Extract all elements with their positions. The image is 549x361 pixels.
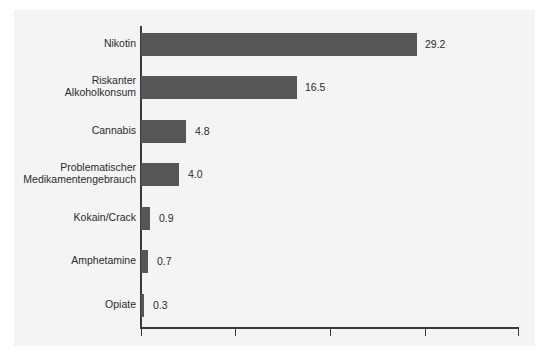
category-label-riskanter-line2: Alkoholkonsum: [0, 87, 136, 99]
value-label-kokain-crack: 0.9: [159, 212, 174, 224]
bar-row-problematischer-medikamentengebrauch: Problematischer Medikamentengebrauch 4.0: [0, 163, 549, 186]
bar-opiate: [141, 294, 144, 317]
category-label-nikotin-line1: Nikotin: [104, 37, 136, 49]
bar-row-kokain-crack: Kokain/Crack 0.9: [0, 207, 549, 230]
bar-row-opiate: Opiate 0.3: [0, 294, 549, 317]
plot-area: Nikotin 29.2 Riskanter Alkoholkonsum 16.…: [0, 0, 549, 361]
category-label-riskanter-alkoholkonsum: Riskanter Alkoholkonsum: [0, 75, 140, 98]
value-label-amphetamine: 0.7: [157, 255, 172, 267]
bar-row-nikotin: Nikotin 29.2: [0, 33, 549, 56]
category-label-problematischer-line2: Medikamentengebrauch: [0, 174, 136, 186]
category-label-problematischer-medikamentengebrauch: Problematischer Medikamentengebrauch: [0, 162, 140, 185]
bar-kokain-crack: [141, 207, 150, 230]
category-label-cannabis: Cannabis: [0, 125, 140, 137]
category-label-nikotin: Nikotin: [0, 38, 140, 50]
value-label-cannabis: 4.8: [195, 125, 210, 137]
category-label-amphetamine-line1: Amphetamine: [71, 254, 136, 266]
category-label-opiate: Opiate: [0, 299, 140, 311]
value-label-problematischer-medikamentengebrauch: 4.0: [188, 168, 203, 180]
bar-nikotin: [141, 33, 417, 56]
x-axis-tick-30: [425, 329, 426, 336]
bar-amphetamine: [141, 250, 148, 273]
x-axis-tick-40: [518, 329, 519, 336]
bar-row-riskanter-alkoholkonsum: Riskanter Alkoholkonsum 16.5: [0, 76, 549, 99]
category-label-opiate-line1: Opiate: [105, 298, 136, 310]
bar-row-amphetamine: Amphetamine 0.7: [0, 250, 549, 273]
value-label-nikotin: 29.2: [425, 38, 445, 50]
bar-chart-figure: Nikotin 29.2 Riskanter Alkoholkonsum 16.…: [0, 0, 549, 361]
category-label-cannabis-line1: Cannabis: [92, 124, 136, 136]
category-label-amphetamine: Amphetamine: [0, 255, 140, 267]
value-label-riskanter-alkoholkonsum: 16.5: [305, 81, 325, 93]
bar-riskanter-alkoholkonsum: [141, 76, 297, 99]
bar-problematischer-medikamentengebrauch: [141, 163, 179, 186]
x-axis-tick-20: [330, 329, 331, 336]
category-label-kokain-crack: Kokain/Crack: [0, 212, 140, 224]
x-axis-tick-0: [141, 329, 142, 336]
category-label-kokain-crack-line1: Kokain/Crack: [74, 211, 136, 223]
bar-cannabis: [141, 120, 186, 143]
value-label-opiate: 0.3: [153, 299, 168, 311]
category-label-riskanter-line1: Riskanter: [0, 75, 136, 87]
bar-row-cannabis: Cannabis 4.8: [0, 120, 549, 143]
category-label-problematischer-line1: Problematischer: [0, 162, 136, 174]
x-axis-tick-10: [235, 329, 236, 336]
